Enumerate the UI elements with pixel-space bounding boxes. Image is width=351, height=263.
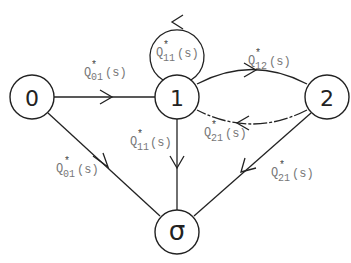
svg-text:21: 21 <box>211 133 223 144</box>
svg-text:(s): (s) <box>292 167 314 181</box>
svg-text:*: * <box>137 129 143 140</box>
svg-text:*: * <box>64 156 70 167</box>
node-2: 2 <box>305 75 349 119</box>
svg-text:(s): (s) <box>177 47 199 61</box>
svg-text:(s): (s) <box>105 66 127 80</box>
edge-label-0-to-1: Q 01 * (s) <box>84 60 127 83</box>
svg-text:(s): (s) <box>269 55 291 69</box>
svg-text:(s): (s) <box>77 163 99 177</box>
svg-text:(s): (s) <box>225 127 247 141</box>
edge-label-1-to-2: Q 12 * (s) <box>248 48 291 72</box>
edge-label-2-to-sigma: Q 21 * (s) <box>271 160 314 184</box>
svg-text:(s): (s) <box>150 136 172 150</box>
node-1: 1 <box>155 75 199 119</box>
svg-text:12: 12 <box>255 61 267 72</box>
edge-label-1-to-sigma: Q 11 * (s) <box>130 129 172 153</box>
node-2-label: 2 <box>320 86 334 111</box>
node-sigma: σ <box>155 210 199 254</box>
svg-text:*: * <box>163 40 169 51</box>
node-sigma-label: σ <box>169 216 185 246</box>
svg-text:21: 21 <box>278 173 290 184</box>
node-0: 0 <box>10 75 54 119</box>
svg-text:11: 11 <box>137 142 149 153</box>
svg-text:*: * <box>211 120 217 131</box>
svg-text:*: * <box>279 160 285 171</box>
edge-0-to-1 <box>54 90 155 104</box>
svg-text:01: 01 <box>63 169 75 180</box>
svg-text:*: * <box>255 48 261 59</box>
state-transition-diagram: 0 1 2 σ Q 01 * (s) Q 11 * (s) Q 12 * (s)… <box>0 0 351 263</box>
arrowhead-icon <box>172 15 183 29</box>
node-0-label: 0 <box>25 86 39 111</box>
edge-1-to-sigma <box>170 119 184 210</box>
svg-text:*: * <box>91 60 97 71</box>
arrowhead-icon <box>241 158 256 172</box>
svg-text:11: 11 <box>163 53 175 64</box>
edge-label-0-to-sigma: Q 01 * (s) <box>56 156 99 180</box>
svg-text:01: 01 <box>91 72 103 83</box>
node-1-label: 1 <box>170 86 184 111</box>
edge-label-1-self-loop: Q 11 * (s) <box>156 40 199 64</box>
